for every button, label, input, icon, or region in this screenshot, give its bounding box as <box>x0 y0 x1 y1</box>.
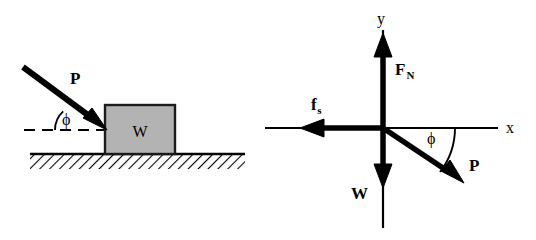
friction-force-subscript: s <box>317 104 322 116</box>
physics-figure: W ϕ P x y FN <box>0 0 536 240</box>
ground-hatching <box>30 155 245 169</box>
block-weight-label: W <box>132 123 148 140</box>
hatched-ground <box>30 154 245 169</box>
normal-force-subscript: N <box>406 69 414 81</box>
normal-force-label: FN <box>395 60 414 81</box>
friction-force-base: f <box>311 95 317 114</box>
applied-force-label-left: P <box>70 69 80 88</box>
weight-force-arrow <box>374 128 392 188</box>
friction-force-head <box>300 119 324 137</box>
right-panel-group: x y FN fs W <box>265 10 514 228</box>
normal-force-head <box>374 33 392 57</box>
applied-force-arrow-right <box>383 128 464 183</box>
x-axis-label: x <box>506 119 514 136</box>
angle-label-right: ϕ <box>427 130 435 148</box>
weight-force-label: W <box>351 184 368 203</box>
y-axis-label: y <box>377 10 385 28</box>
applied-force-label-right: P <box>469 156 479 175</box>
normal-force-base: F <box>395 60 405 79</box>
left-panel-group: W ϕ P <box>23 67 245 169</box>
figure-canvas: W ϕ P x y FN <box>0 0 536 240</box>
applied-force-shaft-right <box>383 128 449 172</box>
weight-force-head <box>374 164 392 188</box>
normal-force-arrow <box>374 33 392 128</box>
friction-force-arrow <box>300 119 383 137</box>
friction-force-label: fs <box>311 95 322 116</box>
angle-label-left: ϕ <box>62 111 70 129</box>
applied-force-shaft-left <box>23 67 96 121</box>
applied-force-head-right <box>441 160 464 183</box>
